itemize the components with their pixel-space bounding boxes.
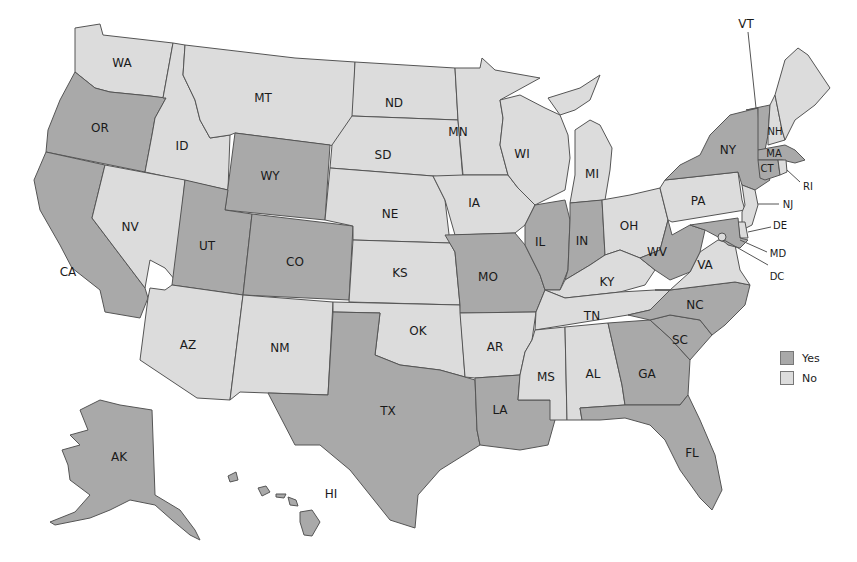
us-map: WA OR CA ID NV MT WY UT CO AZ NM ND SD N… (0, 0, 857, 562)
label-OH: OH (620, 219, 638, 233)
state-DC[interactable] (718, 233, 726, 241)
label-CO: CO (286, 255, 304, 269)
label-MS: MS (537, 370, 555, 384)
label-OK: OK (409, 324, 427, 338)
label-VT: VT (738, 17, 754, 31)
label-NY: NY (720, 143, 737, 157)
legend-label-no: No (802, 372, 817, 385)
leader-DE (748, 227, 771, 232)
label-TN: TN (583, 309, 600, 323)
label-SD: SD (375, 148, 392, 162)
label-KS: KS (392, 266, 408, 280)
label-AL: AL (586, 367, 601, 381)
label-IA: IA (468, 196, 481, 210)
legend-swatch-yes (780, 351, 794, 365)
state-ND[interactable] (352, 62, 458, 120)
state-HI[interactable] (228, 472, 320, 536)
label-DC: DC (770, 271, 785, 282)
label-SC: SC (672, 333, 688, 347)
label-OR: OR (91, 121, 109, 135)
label-MN: MN (448, 125, 467, 139)
leader-VT (748, 32, 756, 108)
label-MI: MI (585, 167, 599, 181)
label-AZ: AZ (180, 338, 196, 352)
label-HI: HI (325, 487, 338, 501)
state-ME[interactable] (775, 48, 830, 140)
label-MA: MA (766, 148, 782, 159)
leader-MD (740, 240, 767, 252)
label-UT: UT (199, 239, 216, 253)
label-CA: CA (60, 265, 77, 279)
label-ID: ID (176, 139, 189, 153)
label-AR: AR (487, 340, 504, 354)
label-NH: NH (768, 126, 783, 137)
state-FL[interactable] (580, 395, 722, 510)
label-ND: ND (385, 96, 403, 110)
label-MT: MT (254, 91, 272, 105)
legend-item-no: No (780, 368, 820, 388)
legend: Yes No (780, 348, 820, 388)
label-NE: NE (382, 207, 399, 221)
label-AK: AK (111, 450, 128, 464)
label-WA: WA (112, 56, 132, 70)
label-FL: FL (685, 446, 699, 460)
label-TX: TX (379, 404, 396, 418)
label-RI: RI (803, 181, 813, 192)
legend-item-yes: Yes (780, 348, 820, 368)
label-NC: NC (686, 298, 703, 312)
label-NM: NM (270, 341, 289, 355)
label-NV: NV (121, 220, 139, 234)
state-AK[interactable] (50, 400, 200, 540)
label-NJ: NJ (783, 199, 793, 210)
label-IN: IN (576, 234, 589, 248)
label-WY: WY (260, 169, 280, 183)
legend-swatch-no (780, 371, 794, 385)
label-MO: MO (478, 270, 498, 284)
label-IL: IL (535, 235, 546, 249)
label-MD: MD (770, 248, 787, 259)
label-KY: KY (600, 275, 615, 289)
state-RI[interactable] (778, 160, 787, 175)
leader-RI (787, 170, 800, 182)
label-GA: GA (638, 367, 656, 381)
label-PA: PA (691, 194, 706, 208)
label-WV: WV (647, 245, 668, 259)
label-VA: VA (697, 258, 713, 272)
label-DE: DE (773, 220, 787, 231)
label-CT: CT (760, 163, 774, 174)
label-WI: WI (514, 147, 529, 161)
label-LA: LA (492, 403, 508, 417)
legend-label-yes: Yes (802, 352, 820, 365)
